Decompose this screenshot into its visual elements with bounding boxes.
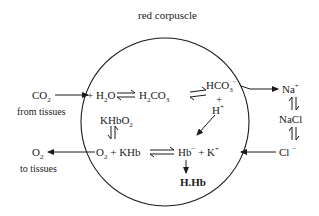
equilibrium-arrow-khbo2 [108,126,118,139]
proton-to-hb-arrow [197,115,215,135]
hb-k-label: Hb− + K+ [178,146,219,158]
equilibrium-arrow-nacl-cl [289,127,299,140]
to-tissues-label: to tissues [20,163,57,175]
o2-khb-label: O2 + KHb [96,146,141,158]
o2-out-label: O2 [32,146,43,158]
protonated-hemoglobin-label: H.Hb [180,176,206,188]
sodium-chloride-label: NaCl [279,113,302,125]
bicarbonate-exit-arrow [241,86,278,89]
equilibrium-arrow-na-nacl [289,97,299,110]
oxyhemoglobin-label: KHbO2 [100,114,133,126]
sodium-ion-label: Na+ [282,83,299,95]
co2-label: CO2 [32,89,51,101]
carbonic-acid-label: H2CO3 [139,89,169,101]
chloride-ion-label: Cl − [279,146,296,158]
from-tissues-label: from tissues [17,106,66,118]
equilibrium-arrow-h2co3-dissociation [190,87,206,100]
diagram-title: red corpuscle [138,9,197,21]
bicarbonate-label: HCO3− [206,79,237,91]
equilibrium-arrow-khb-hb [150,147,174,157]
proton-label: H+ [212,104,224,116]
water-label: + H2O [87,89,115,101]
equilibrium-arrow-h2o-h2co3 [117,90,135,100]
